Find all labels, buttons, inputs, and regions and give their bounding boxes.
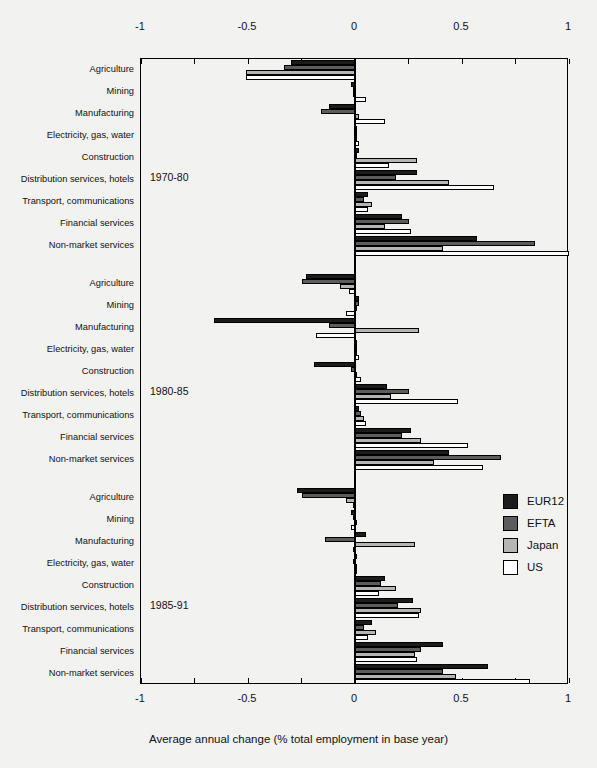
bar-japan	[355, 350, 357, 355]
legend: EUR12EFTAJapanUS	[503, 490, 564, 578]
bar-efta	[355, 647, 421, 652]
axis-tick	[515, 59, 516, 64]
bar-us	[355, 355, 359, 360]
bar-efta	[329, 323, 355, 328]
bar-japan	[355, 630, 376, 635]
legend-swatch-efta	[503, 516, 518, 531]
category-label: Transport, communications	[22, 196, 134, 206]
category-label: Mining	[107, 514, 134, 524]
axis-tick	[141, 678, 142, 683]
bar-eur12	[355, 384, 387, 389]
category-label: Non-market services	[49, 454, 134, 464]
bar-eur12	[355, 214, 402, 219]
category-label: Construction	[82, 152, 134, 162]
bar-eur12	[291, 60, 355, 65]
bar-us	[353, 503, 355, 508]
bar-us	[355, 443, 468, 448]
bar-efta	[355, 345, 357, 350]
category-label: Non-market services	[49, 668, 134, 678]
category-label: Agriculture	[90, 278, 134, 288]
bar-eur12	[355, 340, 357, 345]
x-tick-label: -0.5	[227, 692, 267, 704]
legend-item-japan[interactable]: Japan	[503, 534, 564, 556]
bar-us	[355, 679, 530, 684]
bar-japan	[355, 652, 415, 657]
bar-eur12	[355, 406, 359, 411]
legend-item-efta[interactable]: EFTA	[503, 512, 564, 534]
bar-us	[349, 289, 355, 294]
bar-eur12	[355, 192, 368, 197]
bar-efta	[351, 367, 355, 372]
x-tick-label: 0.5	[441, 20, 481, 32]
bar-japan	[346, 498, 355, 503]
x-tick-label: 0.5	[441, 692, 481, 704]
bar-efta	[355, 625, 364, 630]
bar-eur12	[355, 170, 417, 175]
bar-eur12	[355, 554, 357, 559]
bar-eur12	[355, 148, 359, 153]
category-label: Distribution services, hotels	[21, 174, 134, 184]
category-label: Transport, communications	[22, 624, 134, 634]
legend-label: Japan	[527, 539, 558, 551]
bar-efta	[355, 455, 501, 460]
axis-tick	[194, 678, 195, 683]
bar-eur12	[314, 362, 355, 367]
axis-tick	[301, 678, 302, 683]
category-label: Non-market services	[49, 240, 134, 250]
bar-us	[355, 591, 379, 596]
bar-eur12	[355, 598, 413, 603]
bar-us	[316, 333, 355, 338]
bar-efta	[353, 559, 355, 564]
bar-eur12	[355, 620, 372, 625]
category-label: Transport, communications	[22, 410, 134, 420]
category-label: Agriculture	[90, 492, 134, 502]
bar-japan	[355, 114, 359, 119]
bar-eur12	[297, 488, 355, 493]
category-label: Construction	[82, 580, 134, 590]
bar-efta	[353, 87, 355, 92]
axis-tick	[569, 678, 570, 683]
bar-us	[351, 525, 355, 530]
bar-japan	[353, 92, 355, 97]
category-label: Agriculture	[90, 64, 134, 74]
category-label: Financial services	[60, 646, 134, 656]
axis-tick	[462, 59, 463, 64]
bar-eur12	[355, 236, 477, 241]
bar-efta	[355, 411, 361, 416]
bar-japan	[355, 202, 372, 207]
bar-eur12	[351, 82, 355, 87]
category-label: Electricity, gas, water	[47, 130, 134, 140]
x-axis-title: Average annual change (% total employmen…	[0, 733, 597, 745]
category-label: Mining	[107, 86, 134, 96]
bar-us	[355, 229, 411, 234]
bar-efta	[355, 603, 398, 608]
bar-japan	[355, 328, 419, 333]
category-label: Construction	[82, 366, 134, 376]
bar-efta	[302, 493, 356, 498]
bar-efta	[355, 175, 396, 180]
category-label: Distribution services, hotels	[21, 602, 134, 612]
bar-japan	[355, 438, 421, 443]
bar-us	[355, 163, 389, 168]
axis-tick	[569, 59, 570, 64]
bar-efta	[355, 131, 357, 136]
bar-us	[355, 141, 359, 146]
bar-efta	[355, 581, 381, 586]
x-tick-label: -0.5	[227, 20, 267, 32]
axis-tick	[408, 59, 409, 64]
category-label: Manufacturing	[75, 536, 134, 546]
x-tick-label: 0	[334, 20, 374, 32]
bar-us	[355, 421, 366, 426]
bar-us	[246, 75, 355, 80]
plot-area	[140, 58, 568, 684]
bar-efta	[355, 301, 359, 306]
category-label: Financial services	[60, 218, 134, 228]
bar-efta	[355, 433, 402, 438]
legend-item-us[interactable]: US	[503, 556, 564, 578]
bar-eur12	[351, 510, 355, 515]
bar-us	[355, 207, 368, 212]
legend-item-eur12[interactable]: EUR12	[503, 490, 564, 512]
x-tick-label: 1	[548, 692, 588, 704]
x-tick-label: -1	[120, 20, 160, 32]
bar-us	[355, 251, 569, 256]
